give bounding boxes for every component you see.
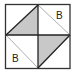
label-bottom-left: B — [12, 53, 19, 64]
diagonal-top-right — [38, 5, 70, 35]
label-top-right: B — [56, 10, 63, 21]
diagonal-bottom-left — [6, 35, 38, 68]
quadrant-diagram: B B — [0, 0, 74, 71]
